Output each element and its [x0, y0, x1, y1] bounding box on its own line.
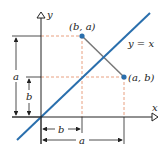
reflection-diagram: y x y = x (b, a) (a, b) a b b a — [0, 0, 167, 156]
dimension-bottom-a: a — [79, 135, 85, 146]
point-b-a-label: (b, a) — [69, 21, 96, 32]
point-b-a — [79, 33, 84, 38]
dimension-bottom-b: b — [58, 124, 64, 135]
point-a-b — [121, 74, 126, 79]
dimension-left-b: b — [26, 91, 32, 102]
dimension-left-a: a — [13, 71, 19, 82]
point-a-b-label: (a, b) — [128, 72, 155, 83]
y-axis-arrow-icon — [37, 12, 45, 18]
x-axis-label: x — [152, 102, 158, 113]
line-label: y = x — [127, 38, 154, 49]
x-axis-arrow-icon — [152, 113, 158, 121]
y-axis-label: y — [46, 9, 53, 20]
